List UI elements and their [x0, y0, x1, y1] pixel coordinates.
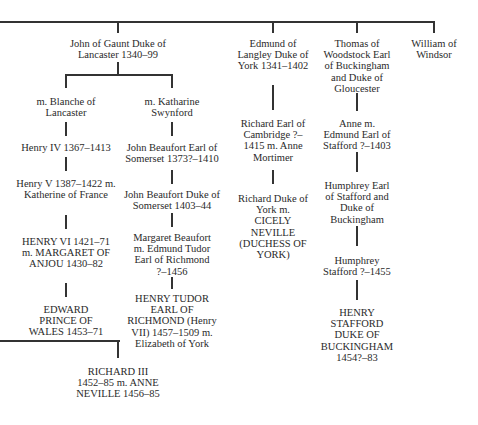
- node-margaret-beaufort: Margaret Beaufort m. Edmund Tudor Earl o…: [130, 232, 214, 277]
- node-henry-vi: HENRY VI 1421–71 m. MARGARET OF ANJOU 14…: [16, 236, 116, 270]
- node-richard-iii: RICHARD III 1452–85 m. ANNE NEVILLE 1456…: [76, 366, 160, 400]
- thomas-to-anne: [356, 93, 358, 111]
- node-humphrey-earl: Humphrey Earl of Stafford and Duke of Bu…: [320, 180, 394, 225]
- humphrey-earl-to-humphrey-stafford: [356, 226, 358, 246]
- node-thomas-woodstock: Thomas of Woodstock Earl of Buckingham a…: [322, 38, 392, 94]
- drop-richard-iii: [117, 340, 119, 358]
- node-john-of-gaunt: John of Gaunt Duke of Lancaster 1340–99: [62, 38, 174, 60]
- henry-iv-to-henry-v: [65, 157, 67, 171]
- node-henry-tudor: HENRY TUDOR EARL OF RICHMOND (Henry VII)…: [124, 293, 220, 349]
- richard-cambridge-to-richard-york: [272, 170, 274, 184]
- henry-v-to-henry-vi: [65, 215, 67, 229]
- john-beaufort-duke-to-margaret: [171, 213, 173, 227]
- humphrey-stafford-to-henry-stafford: [356, 280, 358, 300]
- drop-katharine: [171, 74, 173, 88]
- margaret-to-henry-tudor: [171, 277, 173, 289]
- node-blanche: m. Blanche of Lancaster: [30, 96, 102, 118]
- richard-iii-bar: [0, 340, 120, 342]
- node-richard-york: Richard Duke of York m. CICELY NEVILLE (…: [238, 193, 308, 260]
- blanche-to-henry-iv: [65, 122, 67, 136]
- node-anne: Anne m. Edmund Earl of Stafford ?–1403: [322, 118, 392, 152]
- node-john-beaufort-earl: John Beaufort Earl of Somerset 1373?–141…: [122, 142, 222, 164]
- node-richard-cambridge: Richard Earl of Cambridge ?–1415 m. Anne…: [236, 118, 310, 163]
- john-beaufort-earl-to-duke: [171, 170, 173, 184]
- henry-vi-to-edward: [65, 283, 67, 297]
- node-henry-stafford: HENRY STAFFORD DUKE OF BUCKINGHAM 1454?–…: [318, 307, 396, 363]
- node-henry-v: Henry V 1387–1422 m. Katherine of France: [16, 178, 116, 200]
- katharine-to-john-beaufort: [171, 122, 173, 136]
- node-henry-iv: Henry IV 1367–1413: [10, 142, 122, 153]
- drop-edmund-langley: [272, 21, 274, 33]
- node-edmund-langley: Edmund of Langley Duke of York 1341–1402: [236, 38, 310, 72]
- node-edward-prince: EDWARD PRINCE OF WALES 1453–71: [26, 304, 106, 338]
- node-john-beaufort-duke: John Beaufort Duke of Somerset 1403–44: [122, 189, 222, 211]
- drop-john-of-gaunt: [117, 21, 119, 33]
- drop-william-windsor: [433, 21, 435, 33]
- node-katharine: m. Katharine Swynford: [138, 96, 206, 118]
- anne-to-humphrey-earl: [356, 152, 358, 172]
- drop-blanche: [65, 74, 67, 88]
- john-gaunt-marriage-bar: [65, 74, 173, 76]
- node-humphrey-stafford: Humphrey Stafford ?–1455: [320, 255, 394, 277]
- top-sibling-bar: [0, 21, 435, 23]
- node-william-windsor: William of Windsor: [404, 38, 464, 60]
- edmund-to-richard-cambridge: [272, 85, 274, 110]
- drop-thomas-woodstock: [356, 21, 358, 33]
